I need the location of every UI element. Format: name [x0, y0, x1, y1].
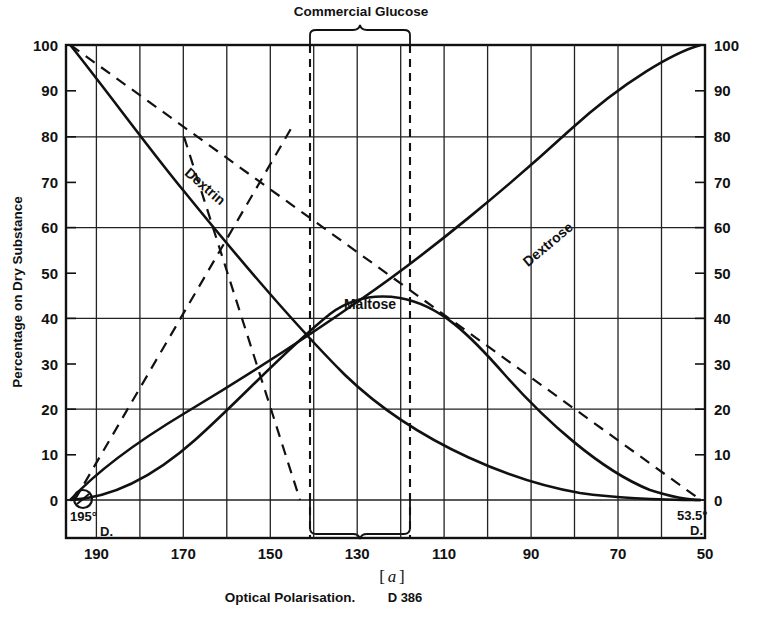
x-tick-150: 150: [258, 545, 283, 562]
y-tick-left-0: 0: [50, 492, 58, 509]
x-axis-symbol-close: ]: [399, 567, 405, 586]
y-tick-left-10: 10: [41, 446, 58, 463]
y-tick-right-20: 20: [714, 401, 731, 418]
y-tick-right-90: 90: [714, 82, 731, 99]
curve-label-maltose: Maltose: [344, 296, 396, 312]
y-tick-right-40: 40: [714, 310, 731, 327]
left-endpoint-sublabel: D.: [100, 524, 113, 539]
y-tick-left-80: 80: [41, 128, 58, 145]
x-tick-50: 50: [697, 545, 714, 562]
x-axis-symbol-group: [ a ]: [379, 567, 404, 586]
x-tick-90: 90: [523, 545, 540, 562]
chart-svg: Commercial Glucose: [0, 0, 770, 627]
figure-container: Commercial Glucose: [0, 0, 770, 627]
background: [0, 0, 770, 627]
right-endpoint-label: 53.5°: [677, 508, 708, 523]
y-tick-left-100: 100: [33, 37, 58, 54]
y-tick-left-40: 40: [41, 310, 58, 327]
x-tick-190: 190: [84, 545, 109, 562]
figure-number: D 386: [388, 590, 423, 605]
y-tick-left-70: 70: [41, 174, 58, 191]
y-tick-left-90: 90: [41, 82, 58, 99]
x-axis-symbol-variable: a: [388, 567, 397, 586]
y-tick-right-30: 30: [714, 356, 731, 373]
y-tick-right-10: 10: [714, 446, 731, 463]
y-axis-title: Percentage on Dry Substance: [10, 196, 25, 388]
x-tick-170: 170: [171, 545, 196, 562]
x-tick-130: 130: [345, 545, 370, 562]
y-tick-right-70: 70: [714, 174, 731, 191]
y-tick-right-0: 0: [714, 492, 722, 509]
y-tick-right-80: 80: [714, 128, 731, 145]
y-tick-left-60: 60: [41, 219, 58, 236]
x-tick-70: 70: [610, 545, 627, 562]
x-axis-symbol-open: [: [379, 567, 385, 586]
y-tick-right-60: 60: [714, 219, 731, 236]
y-tick-right-100: 100: [714, 37, 739, 54]
y-tick-left-20: 20: [41, 401, 58, 418]
y-tick-left-50: 50: [41, 265, 58, 282]
y-tick-left-30: 30: [41, 356, 58, 373]
left-endpoint-label: 195°: [70, 509, 97, 524]
right-endpoint-sublabel: D.: [690, 523, 703, 538]
chart-top-title: Commercial Glucose: [294, 4, 429, 19]
y-tick-right-50: 50: [714, 265, 731, 282]
x-tick-110: 110: [432, 545, 456, 562]
x-axis-title: Optical Polarisation.: [225, 590, 356, 605]
